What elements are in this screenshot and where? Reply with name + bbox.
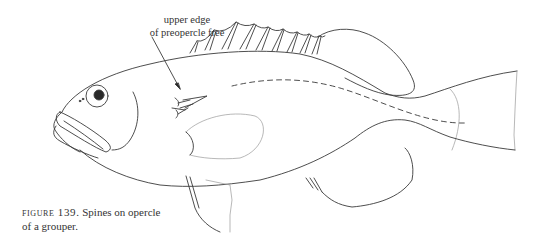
annotation-arrowhead [175, 83, 180, 89]
body-lower-contour [80, 120, 515, 187]
caudal-peduncle [450, 89, 459, 150]
annotation-line-2: of preopercle free [112, 26, 262, 39]
head-snout [54, 112, 80, 152]
caption-text-1: Spines on opercle [80, 206, 161, 218]
figure-label: figure 139. [22, 206, 80, 218]
body-upper-contour [62, 51, 517, 112]
annotation-line-1: upper edge [112, 13, 262, 26]
lateral-line [232, 80, 465, 123]
opercle-spines [172, 96, 207, 118]
nostril-1 [79, 100, 81, 102]
annotation-label: upper edge of preopercle free [112, 13, 262, 39]
lower-jaw [54, 126, 98, 158]
pelvic-fin-spine [190, 177, 199, 208]
pupil [94, 90, 104, 100]
soft-dorsal-fin [318, 29, 414, 95]
caudal-fin [514, 71, 517, 150]
fish-figure: upper edge of preopercle free figure 139… [0, 0, 537, 247]
preopercle-edge [112, 92, 138, 150]
caption-text-2: of a grouper. [22, 220, 78, 232]
pectoral-fin [186, 114, 263, 159]
figure-caption: figure 139. Spines on opercle of a group… [22, 205, 212, 233]
nostril-2 [82, 98, 84, 100]
pectoral-fin-base [186, 132, 193, 155]
upper-jaw [56, 112, 110, 152]
